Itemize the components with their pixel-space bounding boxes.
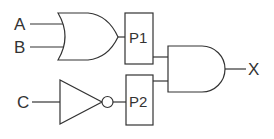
- probe-p1-label: P1: [129, 29, 147, 46]
- logic-circuit-diagram: A B C P1 P2 X: [0, 0, 274, 139]
- input-label-c: C: [17, 93, 29, 112]
- input-label-a: A: [14, 15, 26, 34]
- output-label-x: X: [248, 60, 259, 79]
- and-gate: [168, 46, 225, 92]
- not-bubble: [102, 97, 113, 108]
- probe-p2-label: P2: [129, 93, 147, 110]
- input-label-b: B: [14, 38, 25, 57]
- or-gate: [58, 13, 118, 60]
- not-gate: [60, 80, 102, 124]
